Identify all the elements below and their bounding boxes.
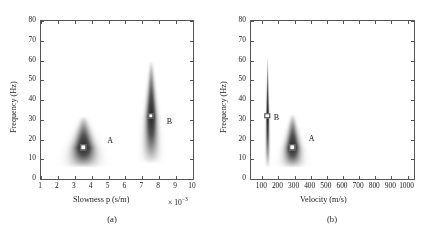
mode-pick-marker[interactable] <box>81 145 86 150</box>
caption-b: (b) <box>327 214 337 224</box>
x-tick-label: 100 <box>256 182 267 189</box>
x-tick-label: 1000 <box>399 182 414 189</box>
y-tick-label: 80 <box>18 16 36 23</box>
mode-annotation-label: B <box>274 112 279 121</box>
x-tick-label: 2 <box>55 182 59 189</box>
plot-area-b: BA <box>250 20 415 180</box>
energy-spectrum-canvas <box>41 21 193 179</box>
y-tick-label: 40 <box>18 95 36 102</box>
y-tick <box>190 179 193 180</box>
mode-pick-marker[interactable] <box>148 113 153 118</box>
y-tick-label: 80 <box>228 16 246 23</box>
x-tick-label: 900 <box>385 182 396 189</box>
x-tick-label: 300 <box>288 182 299 189</box>
x-tick-label: 9 <box>173 182 177 189</box>
x-tick-label: 10 <box>188 182 195 189</box>
caption-a: (a) <box>107 214 117 224</box>
x-tick-label: 4 <box>89 182 93 189</box>
x-tick-label: 5 <box>106 182 110 189</box>
x-tick-label: 800 <box>369 182 380 189</box>
mode-pick-marker[interactable] <box>264 113 269 118</box>
x-tick <box>193 21 194 24</box>
y-tick-label: 70 <box>228 36 246 43</box>
mode-annotation-label: B <box>167 116 172 125</box>
x-axis-title-a: Slowness p (s/m) <box>73 196 129 204</box>
x-tick-label: 6 <box>123 182 127 189</box>
exponent-prefix: × 10 <box>168 198 182 207</box>
dispersion-spectrum-figure: AB Frequency (Hz) Slowness p (s/m) × 10−… <box>0 0 431 240</box>
plot-area-a: AB <box>40 20 194 180</box>
y-axis-title-a: Frequency (Hz) <box>10 81 18 133</box>
y-tick-label: 0 <box>18 174 36 181</box>
mode-pick-marker[interactable] <box>289 145 294 150</box>
mode-annotation-label: A <box>107 136 113 145</box>
y-tick-label: 60 <box>18 56 36 63</box>
x-tick-label: 700 <box>353 182 364 189</box>
y-tick <box>251 179 254 180</box>
x-tick-label: 8 <box>156 182 160 189</box>
y-tick-label: 50 <box>18 76 36 83</box>
y-tick-label: 10 <box>228 155 246 162</box>
y-tick <box>411 179 414 180</box>
x-tick-label: 7 <box>139 182 143 189</box>
y-tick-label: 50 <box>228 76 246 83</box>
mode-annotation-label: A <box>309 133 315 142</box>
panel-b: BA Frequency (Hz) Velocity (m/s) (b) 010… <box>215 0 431 240</box>
x-axis-title-b: Velocity (m/s) <box>300 196 347 204</box>
x-tick-label: 3 <box>72 182 76 189</box>
y-tick-label: 0 <box>228 174 246 181</box>
y-tick-label: 20 <box>228 135 246 142</box>
y-tick-label: 30 <box>228 115 246 122</box>
panel-a: AB Frequency (Hz) Slowness p (s/m) × 10−… <box>0 0 215 240</box>
x-tick-label: 600 <box>336 182 347 189</box>
energy-spectrum-canvas <box>251 21 414 179</box>
y-tick-label: 30 <box>18 115 36 122</box>
x-tick-label: 1 <box>38 182 42 189</box>
y-tick-label: 20 <box>18 135 36 142</box>
x-axis-exponent-a: × 10−3 <box>168 196 188 207</box>
y-axis-title-b: Frequency (Hz) <box>220 81 228 133</box>
x-tick <box>193 176 194 179</box>
y-tick <box>41 179 44 180</box>
exponent-value: −3 <box>182 196 188 202</box>
y-tick-label: 70 <box>18 36 36 43</box>
y-tick-label: 10 <box>18 155 36 162</box>
x-tick-label: 200 <box>272 182 283 189</box>
y-tick-label: 40 <box>228 95 246 102</box>
x-tick-label: 500 <box>320 182 331 189</box>
y-tick-label: 60 <box>228 56 246 63</box>
x-tick-label: 400 <box>304 182 315 189</box>
